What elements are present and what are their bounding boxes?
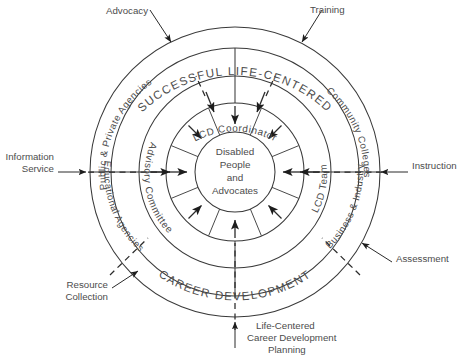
agency-community-colleges: Community Colleges: [325, 85, 373, 178]
planning-label-line2: Career Development: [247, 332, 337, 343]
role-lcd-coordinator: LCD Coordinator: [191, 122, 279, 143]
inner-divider-7: [250, 209, 261, 236]
advocacy-label: Advocacy: [106, 5, 148, 16]
center-line-1: Disabled: [216, 146, 254, 157]
assessment-label: Assessment: [396, 253, 449, 264]
role-lcd-team: LCD Team: [309, 164, 329, 215]
resource-collection-label-line1: Resource: [67, 279, 108, 290]
agency-business-industry: Business & Industry: [323, 163, 365, 250]
center-line-3: and: [227, 172, 243, 183]
role-advisory-committee: Advisory Committee: [142, 141, 175, 235]
resource-collection-leader: [112, 271, 138, 288]
inward-arrow-southwest: [189, 206, 202, 219]
external-assessment: Assessment: [362, 243, 449, 264]
information-service-label-line2: Service: [22, 163, 54, 174]
inner-divider-8: [272, 187, 299, 198]
training-label: Training: [310, 4, 345, 15]
external-information-service: Information Service: [6, 151, 86, 174]
inward-arrow-southeast: [269, 206, 282, 219]
planning-label-line3: Planning: [268, 344, 306, 355]
external-instruction: Instruction: [381, 160, 457, 172]
resource-collection-label-line2: Collection: [65, 291, 108, 302]
external-training: Training: [302, 4, 345, 42]
assessment-leader: [362, 243, 392, 262]
external-lcce-planning: Life-Centered Career Development Plannin…: [235, 320, 337, 355]
advocacy-leader: [150, 10, 171, 42]
planning-label-line1: Life-Centered: [256, 320, 315, 331]
information-service-label-line1: Information: [6, 151, 54, 162]
center-label: Disabled People and Advocates: [212, 146, 258, 196]
external-resource-collection: Resource Collection: [65, 271, 138, 302]
lcce-circular-model: Advocacy Training Information Service In…: [0, 0, 466, 362]
inner-divider-4: [171, 146, 198, 157]
inner-divider-6: [209, 209, 220, 236]
center-line-4: Advocates: [212, 185, 258, 196]
center-line-2: People: [220, 159, 251, 170]
inner-divider-5: [171, 187, 198, 198]
instruction-label: Instruction: [412, 160, 457, 171]
external-advocacy: Advocacy: [106, 5, 171, 42]
diagram-canvas: Advocacy Training Information Service In…: [0, 0, 466, 362]
inner-divider-1: [272, 146, 299, 157]
agency-educational: Educational Agencies: [102, 160, 146, 253]
